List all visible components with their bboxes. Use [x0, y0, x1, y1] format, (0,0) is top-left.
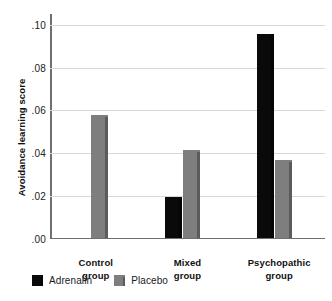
bar-shadow	[271, 36, 274, 238]
category-label-line: Psychopathic	[223, 257, 332, 270]
legend-item-adrenalin: Adrenalin	[32, 275, 92, 286]
bar-adrenalin-mixed	[165, 197, 182, 238]
y-axis-tick-label: .10	[31, 19, 46, 30]
x-axis-category-label: Psychopathicgroup	[223, 257, 332, 282]
y-axis-tick-label: .06	[31, 105, 46, 116]
x-axis-line	[50, 238, 325, 240]
y-axis-title: Avoidance learning score	[16, 38, 27, 238]
y-axis-tick-label: .08	[31, 62, 46, 73]
bar-chart-figure: Avoidance learning score .00.02.04.06.08…	[0, 0, 332, 301]
bar-adrenalin-psychopathic	[257, 34, 274, 238]
bar-shadow	[197, 152, 200, 238]
legend-swatch-shadow	[123, 277, 126, 287]
y-axis-line	[50, 14, 52, 239]
legend-label: Placebo	[131, 275, 168, 286]
legend-swatch-icon	[114, 275, 125, 286]
bar-shadow	[289, 162, 292, 237]
chart-legend: AdrenalinPlacebo	[32, 275, 168, 286]
y-axis-tick-label: .04	[31, 148, 46, 159]
legend-swatch-icon	[32, 275, 43, 286]
legend-item-placebo: Placebo	[114, 275, 168, 286]
legend-swatch-shadow	[41, 277, 44, 287]
legend-label: Adrenalin	[49, 275, 92, 286]
bar-placebo-mixed	[183, 150, 200, 238]
category-label-line: group	[223, 270, 332, 283]
plot-area: .00.02.04.06.08.10 ControlgroupMixedgrou…	[50, 14, 325, 239]
gridline	[50, 25, 325, 26]
gridline	[50, 110, 325, 111]
y-axis-tick-label: .02	[31, 191, 46, 202]
bar-shadow	[179, 199, 182, 238]
bar-placebo-control	[91, 115, 108, 237]
gridline	[50, 68, 325, 69]
bar-shadow	[105, 117, 108, 237]
bar-placebo-psychopathic	[275, 160, 292, 237]
y-axis-tick-label: .00	[31, 234, 46, 245]
